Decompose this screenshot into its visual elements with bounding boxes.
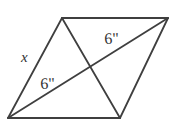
geometry-figure: x 6" 6"	[0, 0, 173, 127]
side-length-label-x: x	[21, 50, 28, 65]
diagonal-length-label-upper: 6"	[104, 30, 119, 46]
diagonal-length-label-lower: 6"	[40, 75, 55, 91]
parallelogram-left-side	[8, 18, 62, 118]
